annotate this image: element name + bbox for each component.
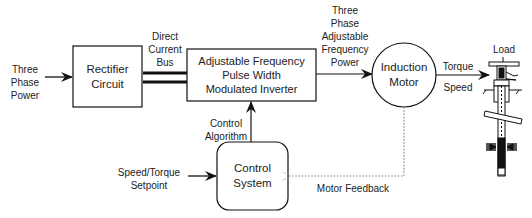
label-line: Adjustable Frequency xyxy=(198,54,304,68)
three-phase-power-label: Three Phase Power xyxy=(8,63,42,102)
torque-label: Torque xyxy=(438,60,478,73)
label-line: Three xyxy=(8,63,42,76)
label-line: Control xyxy=(234,161,271,176)
load-label: Load xyxy=(490,43,518,56)
setpoint-label: Speed/Torque Setpoint xyxy=(116,166,182,192)
label-line: Induction xyxy=(381,60,428,75)
label-line: Three xyxy=(320,4,370,17)
label-line: Phase xyxy=(320,17,370,30)
inverter-output-label: Three Phase Adjustable Frequency Power xyxy=(320,4,370,69)
label-line: Power xyxy=(8,89,42,102)
control-algorithm-label: Control Algorithm xyxy=(203,117,249,143)
label-line: Control xyxy=(203,117,249,130)
label-line: System xyxy=(233,176,271,191)
label-line: Phase xyxy=(8,76,42,89)
label-line: Power xyxy=(320,56,370,69)
rectifier-label: Rectifier Circuit xyxy=(73,46,142,107)
label-line: Current xyxy=(145,43,185,56)
label-line: Setpoint xyxy=(116,179,182,192)
dc-bus-label: Direct Current Bus xyxy=(145,30,185,69)
label-line: Circuit xyxy=(91,77,124,92)
inverter-label: Adjustable Frequency Pulse Width Modulat… xyxy=(187,49,316,101)
label-line: Bus xyxy=(145,56,185,69)
label-line: Speed/Torque xyxy=(116,166,182,179)
motor-feedback-line xyxy=(291,107,404,176)
label-line: Direct xyxy=(145,30,185,43)
control-system-label: Control System xyxy=(217,142,288,210)
motor-label: Induction Motor xyxy=(372,43,436,107)
label-line: Rectifier xyxy=(86,62,128,77)
label-line: Adjustable xyxy=(320,30,370,43)
label-line: Modulated Inverter xyxy=(206,82,298,96)
label-line: Motor xyxy=(389,75,418,90)
label-line: Pulse Width xyxy=(222,68,281,82)
label-line: Frequency xyxy=(320,43,370,56)
motor-feedback-label: Motor Feedback xyxy=(316,182,390,195)
speed-label: Speed xyxy=(438,81,478,94)
